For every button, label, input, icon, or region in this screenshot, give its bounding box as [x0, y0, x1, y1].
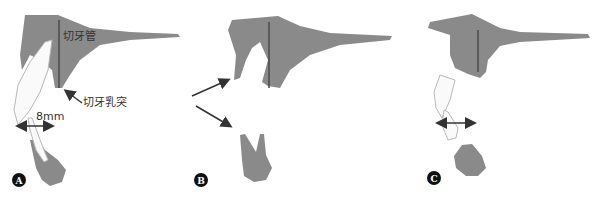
incisive-papilla-label: 切牙乳突	[83, 95, 127, 109]
arrow-lower	[196, 106, 230, 126]
diagram-canvas: 切牙管 切牙乳突 8mm A B C	[0, 0, 600, 197]
badge-c-text: C	[430, 174, 437, 184]
incisive-papilla-arrow	[66, 91, 82, 103]
tooth-lower	[442, 110, 458, 140]
socket-lower	[240, 134, 272, 182]
maxilla-bone	[228, 16, 392, 88]
panel-c: C	[427, 14, 590, 185]
badge-b-text: B	[197, 176, 205, 186]
distance-label: 8mm	[36, 110, 64, 123]
panel-a: 切牙管 切牙乳突 8mm A	[12, 15, 180, 187]
badge-a-text: A	[15, 176, 24, 186]
root-lower	[454, 144, 486, 176]
arrow-upper	[192, 80, 228, 96]
incisive-canal-label: 切牙管	[63, 29, 96, 43]
panel-b: B	[192, 16, 392, 187]
maxilla-bone	[428, 14, 590, 78]
